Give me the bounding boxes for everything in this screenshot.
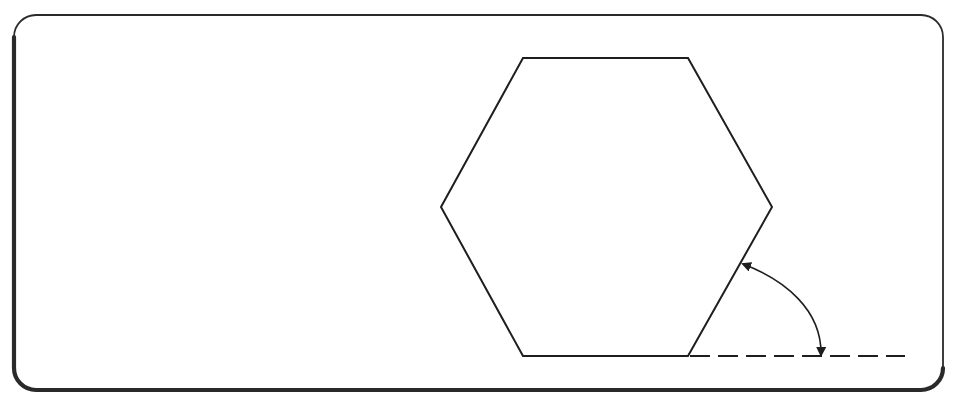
diagram-frame [14,15,943,390]
angle-arc-arrow [743,264,821,355]
hexagon-angle-diagram [0,0,955,398]
hexagon [441,58,772,356]
frame-shadow-edge [14,37,943,390]
frame-outline [14,15,943,390]
